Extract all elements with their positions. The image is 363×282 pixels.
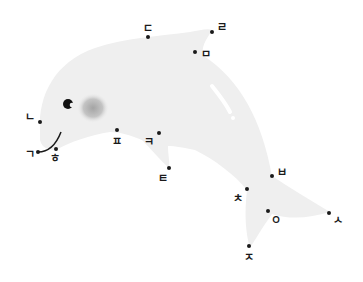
cheek-blush: [77, 93, 109, 123]
dot-point: [54, 147, 58, 151]
dot-label: ㅍ: [112, 136, 122, 147]
dot-label: ㅊ: [233, 193, 243, 204]
dot-point: [38, 120, 42, 124]
dot-label: ㅁ: [201, 49, 211, 60]
dot-label: ㅇ: [271, 215, 281, 226]
dot-point: [146, 35, 150, 39]
body-highlight-dot: [231, 116, 235, 120]
dot-point: [115, 128, 119, 132]
dot-label: ㅋ: [144, 137, 154, 148]
dolphin-dot-puzzle: ㄱㄴㄷㄹㅁㅂㅅㅇㅈㅊㅌㅋㅍㅎ: [0, 0, 363, 282]
dot-point: [327, 211, 331, 215]
dot-label: ㄴ: [25, 112, 35, 123]
dot-point: [167, 166, 171, 170]
dot-point: [210, 30, 214, 34]
dot-label: ㅂ: [277, 167, 287, 178]
dolphin-illustration: [0, 0, 363, 282]
dot-point: [193, 50, 197, 54]
dot-point: [270, 174, 274, 178]
dot-label: ㄹ: [217, 22, 227, 33]
dot-point: [247, 244, 251, 248]
dot-point: [36, 150, 40, 154]
dot-label: ㅅ: [333, 215, 343, 226]
dot-label: ㅌ: [158, 173, 168, 184]
dolphin-body: [40, 29, 330, 248]
dot-label: ㄱ: [25, 149, 35, 160]
dot-point: [245, 187, 249, 191]
dot-label: ㅈ: [244, 252, 254, 263]
dot-label: ㄷ: [143, 23, 153, 34]
dot-label: ㅎ: [50, 153, 60, 164]
dot-point: [157, 131, 161, 135]
dot-point: [266, 209, 270, 213]
